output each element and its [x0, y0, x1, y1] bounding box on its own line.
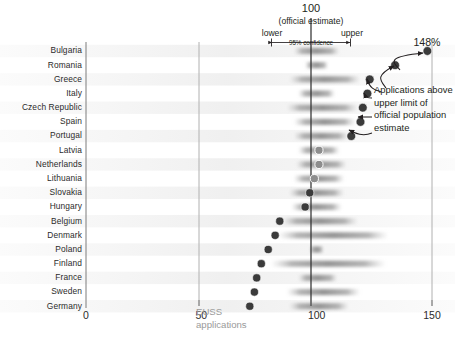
data-point-lithuania: [310, 175, 318, 183]
data-point-latvia: [315, 146, 323, 154]
category-label-hungary: Hungary: [50, 201, 82, 211]
confidence-band: [289, 76, 361, 82]
category-label-greece: Greece: [54, 74, 82, 84]
x-axis-title: EUSS applications: [196, 305, 247, 331]
x-axis-title-line1: EUSS: [196, 305, 247, 318]
confidence-band: [289, 190, 344, 196]
confidence-interval-label: 95% confidence: [289, 39, 333, 46]
category-label-belgium: Belgium: [51, 216, 82, 226]
category-label-sweden: Sweden: [51, 286, 82, 296]
reference-value-label: 100: [302, 2, 320, 14]
data-point-denmark: [271, 231, 279, 239]
chart-root: BulgariaRomaniaGreeceItalyCzech Republic…: [0, 0, 455, 343]
category-label-denmark: Denmark: [47, 230, 82, 240]
confidence-band: [294, 48, 340, 54]
confidence-band: [294, 176, 345, 182]
data-point-slovakia: [306, 189, 314, 197]
confidence-band: [287, 289, 361, 295]
confidence-band: [305, 62, 328, 68]
category-label-slovakia: Slovakia: [50, 187, 82, 197]
confidence-band: [294, 119, 356, 125]
category-label-romania: Romania: [48, 60, 82, 70]
data-point-hungary: [301, 203, 309, 211]
upper-bound-label: upper: [341, 28, 363, 38]
upper-limit-annotation: Applications above upper limit of offici…: [374, 84, 455, 134]
category-label-netherlands: Netherlands: [36, 159, 82, 169]
category-label-czech-republic: Czech Republic: [22, 102, 82, 112]
data-point-belgium: [276, 217, 284, 225]
category-label-bulgaria: Bulgaria: [50, 45, 82, 55]
data-point-netherlands: [315, 160, 323, 168]
data-point-france: [253, 274, 261, 282]
confidence-band: [298, 275, 337, 281]
data-point-sweden: [250, 288, 258, 296]
category-label-finland: Finland: [54, 258, 82, 268]
x-tick-150: 150: [423, 309, 441, 321]
category-label-italy: Italy: [66, 88, 82, 98]
category-label-lithuania: Lithuania: [47, 173, 82, 183]
data-point-poland: [264, 245, 272, 253]
x-axis-title-line2: applications: [196, 318, 247, 331]
category-label-spain: Spain: [60, 116, 82, 126]
data-point-germany: [246, 302, 254, 310]
category-label-poland: Poland: [55, 244, 82, 254]
category-label-portugal: Portugal: [50, 130, 82, 140]
confidence-bands: [271, 48, 389, 309]
data-point-czech-republic: [358, 103, 367, 112]
max-value-label: 148%: [413, 36, 440, 48]
x-tick-100: 100: [308, 309, 326, 321]
confidence-band: [282, 218, 358, 224]
confidence-band: [291, 204, 342, 210]
x-tick-0: 0: [83, 309, 89, 321]
lower-bound-label: lower: [262, 28, 283, 38]
confidence-band: [294, 133, 349, 139]
confidence-band: [277, 232, 388, 238]
official-estimate-label: (official estimate): [279, 16, 344, 26]
confidence-band: [287, 105, 359, 111]
confidence-band: [310, 246, 324, 252]
confidence-band: [298, 90, 335, 96]
category-label-france: France: [55, 272, 82, 282]
category-label-germany: Germany: [47, 301, 82, 311]
confidence-band: [271, 261, 386, 267]
data-point-spain: [356, 118, 365, 127]
data-point-finland: [257, 260, 265, 268]
category-label-latvia: Latvia: [59, 145, 82, 155]
